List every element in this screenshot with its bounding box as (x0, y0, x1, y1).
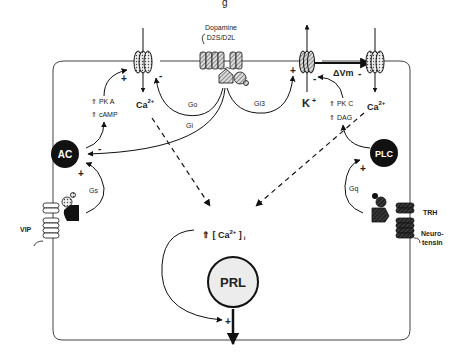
ca-label-right: Ca2+ (367, 100, 386, 112)
plus-sign-secretion: + (225, 316, 231, 327)
plc-label: PLC (375, 149, 394, 159)
gi-label: Gi (186, 122, 193, 129)
plus-sign-gi3: + (290, 65, 296, 76)
gs-label: Gs (89, 187, 98, 194)
ca-channel-right (366, 28, 384, 92)
plc-to-dag-arrow (343, 125, 370, 148)
ca-influx-right-arrow (256, 113, 364, 206)
gq-label: Gq (349, 185, 358, 193)
plus-sign-gq: + (360, 163, 366, 174)
prl-label: PRL (220, 275, 246, 290)
camp-label: ⇑ cAMP (91, 111, 118, 118)
go-label: Go (188, 101, 197, 108)
dopamine-label: Dopamine (205, 24, 237, 32)
gi3-label: Gi3 (254, 100, 265, 107)
intracellular-ca-label: ⇑ [ Ca2+ ]i (202, 229, 246, 241)
pka-label: ⇑ PK A (91, 98, 115, 105)
ca-label-left: Ca2+ (136, 98, 155, 110)
pkc-label: ⇑ PK C (329, 100, 353, 107)
ac-label: AC (58, 149, 72, 160)
minus-sign-pkc: - (313, 73, 316, 84)
plus-sign-gs: + (78, 168, 84, 179)
vip-receptor (34, 193, 79, 247)
vip-label: VIP (20, 226, 32, 233)
k-label: K+ (302, 97, 316, 109)
plus-sign-pka: + (121, 73, 127, 84)
minus-sign-go: - (159, 70, 162, 81)
delta-vm-label: ΔVm (333, 68, 353, 78)
dopamine-receptor (200, 34, 249, 86)
minus-sign-ac: - (98, 143, 101, 154)
go-arrow (156, 78, 223, 116)
ca-influx-left-arrow (152, 118, 210, 206)
ca-channel-left (134, 28, 152, 92)
neurotensin-receptor (396, 218, 420, 243)
dag-label: ⇑ DAG (329, 114, 352, 121)
prl-regulation-diagram: g Dopamine D2S/D2L ΔVm - (0, 0, 460, 358)
pkc-to-k-channel-arrow (318, 77, 343, 98)
title-fragment: g (222, 0, 228, 8)
minus-sign-dvm: - (358, 68, 361, 79)
dopamine-subtypes-label: D2S/D2L (207, 34, 236, 41)
trh-label: TRH (423, 209, 437, 216)
neurotensin-label-line1: Neuro- (421, 230, 444, 237)
neurotensin-label-line2: tensin (422, 239, 443, 246)
